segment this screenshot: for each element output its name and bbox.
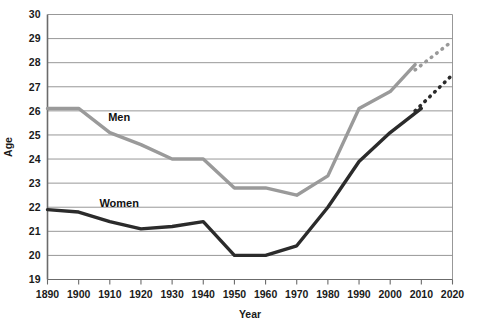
data-series-group: [48, 41, 453, 255]
series-projection-men: [415, 41, 452, 70]
y-tick-label: 26: [29, 105, 41, 117]
y-tick-label: 21: [29, 225, 41, 237]
series-inline-labels: MenWomen: [99, 111, 139, 210]
y-tick-label: 30: [29, 8, 41, 20]
series-line-women: [48, 108, 422, 255]
x-tick-label: 1950: [223, 288, 247, 300]
x-tick-label: 2010: [410, 288, 434, 300]
y-tick-label: 23: [29, 177, 41, 189]
y-tick-label: 20: [29, 249, 41, 261]
x-tick-labels: 1890190019101920193019401950196019701980…: [36, 288, 465, 300]
y-tick-label: 19: [29, 273, 41, 285]
y-tick-label: 22: [29, 201, 41, 213]
x-tick-label: 2020: [441, 288, 465, 300]
series-label-women: Women: [99, 197, 139, 209]
x-tick-label: 1890: [36, 288, 60, 300]
chart-container: 192021222324252627282930 189019001910192…: [0, 0, 487, 330]
y-tick-label: 27: [29, 81, 41, 93]
series-label-men: Men: [108, 111, 130, 123]
gridlines-group: [48, 15, 453, 280]
x-tick-label: 1970: [285, 288, 309, 300]
y-tick-label: 25: [29, 129, 41, 141]
x-tick-label: 1920: [129, 288, 153, 300]
x-axis-title: Year: [239, 308, 261, 320]
x-tick-marks: [48, 280, 453, 285]
x-tick-label: 2000: [379, 288, 403, 300]
y-tick-label: 29: [29, 32, 41, 44]
series-projection-women: [415, 75, 452, 111]
y-axis-title: Age: [2, 137, 14, 157]
x-tick-label: 1940: [192, 288, 216, 300]
axes-group: [48, 15, 453, 280]
x-tick-label: 1980: [316, 288, 340, 300]
x-tick-label: 1910: [98, 288, 122, 300]
y-tick-labels: 192021222324252627282930: [29, 8, 41, 285]
y-tick-label: 24: [29, 153, 41, 165]
x-tick-label: 1900: [67, 288, 91, 300]
y-tick-label: 28: [29, 56, 41, 68]
series-line-men: [48, 65, 416, 196]
x-tick-label: 1990: [347, 288, 371, 300]
line-chart-svg: 192021222324252627282930 189019001910192…: [0, 0, 487, 330]
x-tick-label: 1960: [254, 288, 278, 300]
x-tick-label: 1930: [160, 288, 184, 300]
